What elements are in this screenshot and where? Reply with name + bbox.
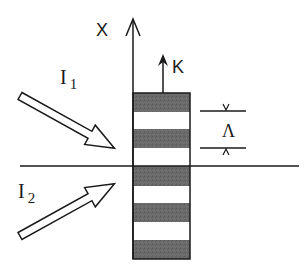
beam-i1-subscript: 1 bbox=[70, 76, 78, 92]
grating-stripe-dark bbox=[133, 166, 190, 186]
grating-vector-k bbox=[158, 54, 168, 93]
grating-stripe-dark bbox=[133, 240, 190, 259]
grating-stripe-light bbox=[133, 148, 190, 166]
grating-stripe-dark bbox=[133, 93, 190, 112]
grating-stripe-dark bbox=[133, 203, 190, 222]
beam-i2-symbol: I bbox=[18, 180, 25, 202]
beam-i2-subscript: 2 bbox=[28, 190, 36, 206]
beam-i2-label: I2 bbox=[18, 180, 35, 206]
grating-stripe-light bbox=[133, 186, 190, 203]
beam-i1-arrow-icon bbox=[15, 86, 120, 158]
beam-i1-label: I1 bbox=[60, 66, 77, 92]
grating bbox=[133, 93, 190, 259]
period-label: Λ bbox=[222, 121, 235, 141]
period-tick-top-icon bbox=[223, 104, 229, 110]
k-vector-label: K bbox=[172, 57, 184, 77]
beam-i1-symbol: I bbox=[60, 66, 67, 88]
grating-stripe-light bbox=[133, 222, 190, 240]
grating-diagram: X K Λ I1 I2 bbox=[0, 0, 306, 274]
x-axis-label: X bbox=[96, 20, 108, 40]
grating-stripe-light bbox=[133, 112, 190, 129]
period-tick-bottom-icon bbox=[223, 149, 229, 155]
grating-stripe-dark bbox=[133, 129, 190, 148]
beam-i2-arrow-icon bbox=[15, 174, 120, 246]
